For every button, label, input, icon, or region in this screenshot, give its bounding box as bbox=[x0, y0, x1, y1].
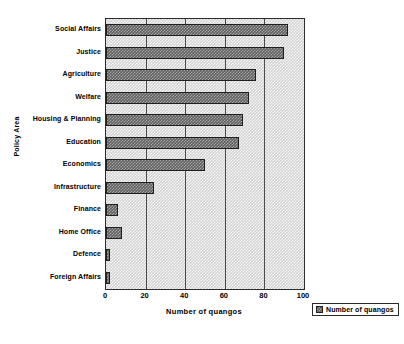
y-axis-tick-label: Defence bbox=[20, 250, 101, 258]
bar bbox=[106, 159, 205, 171]
y-axis-title: Policy Area bbox=[13, 97, 20, 177]
x-axis-title: Number of quangos bbox=[105, 307, 303, 316]
x-axis-tick-label: 40 bbox=[164, 291, 204, 300]
bar bbox=[106, 47, 284, 59]
y-axis-tick-label: Foreign Affairs bbox=[20, 273, 101, 281]
y-axis-tick-label: Infrastructure bbox=[20, 183, 101, 191]
bar-chart: Policy Area Social AffairsJusticeAgricul… bbox=[0, 0, 404, 344]
y-axis-tick-label: Social Affairs bbox=[20, 25, 101, 33]
y-axis-tick-label: Education bbox=[20, 138, 101, 146]
bar bbox=[106, 272, 110, 284]
bar bbox=[106, 227, 122, 239]
y-axis-tick-label: Home Office bbox=[20, 228, 101, 236]
bar bbox=[106, 249, 110, 261]
x-axis-tick-label: 0 bbox=[85, 291, 125, 300]
y-axis-tick-label: Housing & Planning bbox=[20, 115, 101, 123]
x-axis-tick-labels: 020406080100 bbox=[105, 291, 303, 303]
bar bbox=[106, 137, 239, 149]
x-axis-tick-label: 100 bbox=[283, 291, 323, 300]
gridline bbox=[225, 19, 226, 289]
legend-label: Number of quangos bbox=[326, 306, 394, 313]
legend: Number of quangos bbox=[312, 303, 399, 316]
bar bbox=[106, 92, 249, 104]
bar bbox=[106, 69, 256, 81]
y-axis-tick-label: Finance bbox=[20, 205, 101, 213]
y-axis-tick-label: Justice bbox=[20, 48, 101, 56]
gridline bbox=[264, 19, 265, 289]
x-axis-tick-label: 60 bbox=[204, 291, 244, 300]
y-axis-tick-label: Agriculture bbox=[20, 70, 101, 78]
bar bbox=[106, 114, 243, 126]
plot-area bbox=[105, 18, 305, 290]
bar bbox=[106, 182, 154, 194]
x-axis-tick-label: 20 bbox=[125, 291, 165, 300]
gridline bbox=[146, 19, 147, 289]
bar-swatch-icon bbox=[316, 306, 323, 313]
y-axis-tick-labels: Social AffairsJusticeAgricultureWelfareH… bbox=[20, 18, 101, 288]
bar bbox=[106, 204, 118, 216]
x-axis-tick-label: 80 bbox=[243, 291, 283, 300]
bar bbox=[106, 24, 288, 36]
y-axis-tick-label: Economics bbox=[20, 160, 101, 168]
gridline bbox=[185, 19, 186, 289]
y-axis-tick-label: Welfare bbox=[20, 93, 101, 101]
